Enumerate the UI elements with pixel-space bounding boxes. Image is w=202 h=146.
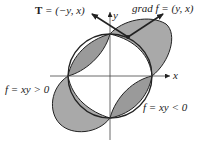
point-on-circle (126, 35, 130, 39)
y-axis-label: y (113, 10, 118, 21)
diagram-svg (0, 0, 202, 146)
positive-region-label: f = xy > 0 (5, 84, 49, 95)
x-axis-label: x (173, 70, 178, 81)
diagram-canvas: T = (−y, x) grad f = (y, x) y x f = xy >… (0, 0, 202, 146)
gradient-label: grad f = (y, x) (132, 3, 194, 14)
lower-left-band (52, 76, 110, 132)
negative-region-label: f = xy < 0 (143, 102, 187, 113)
tangent-expression: = (−y, x) (42, 4, 84, 16)
tangent-label: T = (−y, x) (35, 5, 85, 16)
